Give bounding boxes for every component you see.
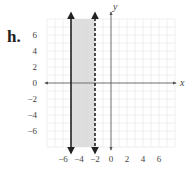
x-tick-label: −4 — [74, 154, 84, 164]
x-axis-label: x — [179, 77, 185, 88]
y-axis-label: y — [112, 1, 118, 12]
y-tick-label: 4 — [33, 46, 38, 56]
y-tick-label: −4 — [27, 110, 37, 120]
y-tick-label: 6 — [33, 30, 38, 40]
x-tick-label: 0 — [109, 154, 114, 164]
axes: xy — [45, 1, 185, 150]
x-tick-label: 2 — [125, 154, 130, 164]
y-tick-label: −2 — [27, 94, 37, 104]
x-tick-label: 6 — [157, 154, 162, 164]
x-tick-label: −6 — [58, 154, 68, 164]
x-tick-label: 4 — [141, 154, 146, 164]
y-tick-label: 2 — [33, 62, 38, 72]
x-tick-label: −2 — [90, 154, 100, 164]
y-tick-label: 0 — [33, 78, 38, 88]
y-tick-label: −6 — [27, 126, 37, 136]
inequality-graph: xy −6−4−202466420−2−4−6 — [0, 0, 196, 169]
